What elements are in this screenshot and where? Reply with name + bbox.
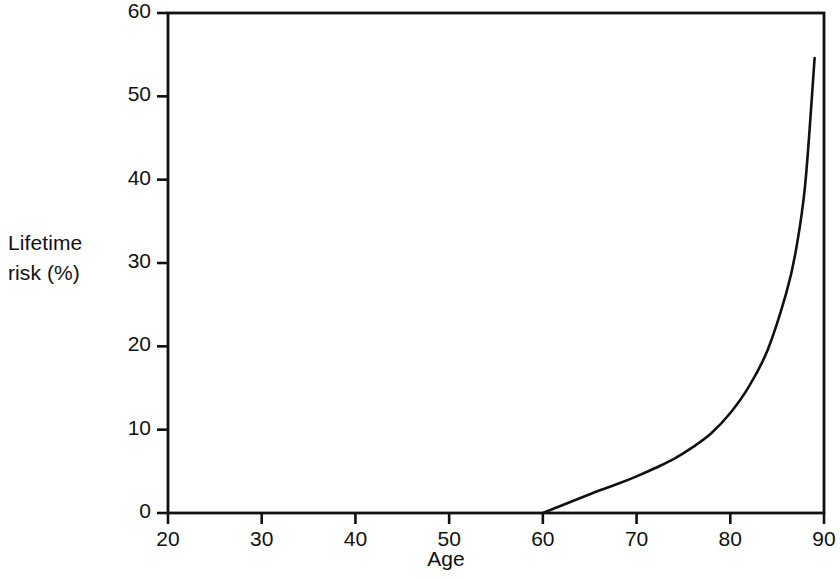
x-tick-label: 80 [700, 527, 760, 551]
y-tick-label: 10 [91, 416, 151, 440]
x-tick-label: 40 [325, 527, 385, 551]
x-tick-label: 50 [419, 527, 479, 551]
y-tick-label: 0 [91, 499, 151, 523]
data-series-group [543, 58, 815, 513]
y-tick-label: 60 [91, 0, 151, 23]
axes-frame [168, 13, 824, 513]
y-tick-label: 30 [91, 249, 151, 273]
y-tick-label: 20 [91, 332, 151, 356]
tick-marks [157, 13, 824, 524]
y-tick-label: 50 [91, 82, 151, 106]
axes-frame-box [168, 13, 824, 513]
x-tick-label: 30 [232, 527, 292, 551]
x-tick-label: 60 [513, 527, 573, 551]
x-tick-label: 70 [607, 527, 667, 551]
data-series-line [543, 58, 815, 513]
x-tick-label: 90 [794, 527, 840, 551]
y-tick-label: 40 [91, 166, 151, 190]
x-tick-label: 20 [138, 527, 198, 551]
